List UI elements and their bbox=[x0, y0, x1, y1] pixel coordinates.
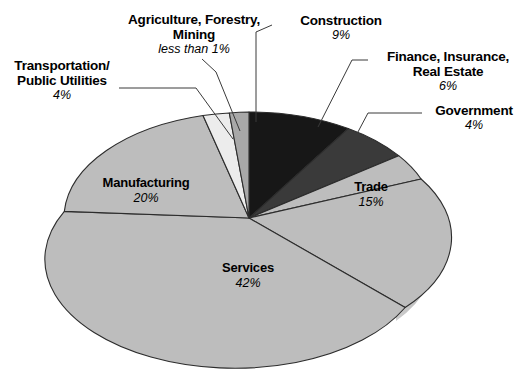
callout-construction-value: 9% bbox=[272, 28, 410, 42]
inner-label-services-name: Services bbox=[193, 261, 303, 276]
callout-government-name: Government bbox=[420, 103, 528, 118]
callout-finance-name-line2: Real Estate bbox=[368, 64, 528, 79]
inner-label-services: Services 42% bbox=[193, 261, 303, 290]
callout-construction: Construction 9% bbox=[272, 13, 410, 42]
callout-agriculture-value: less than 1% bbox=[98, 42, 290, 56]
inner-label-trade-name: Trade bbox=[326, 180, 416, 195]
callout-transportation-name-line1: Transportation/ bbox=[4, 58, 120, 73]
callout-agriculture-name-line1: Agriculture, Forestry, bbox=[98, 12, 290, 27]
inner-label-manufacturing-name: Manufacturing bbox=[85, 176, 207, 191]
callout-transportation-name-line2: Public Utilities bbox=[4, 73, 120, 88]
callout-agriculture-name-line2: Mining bbox=[98, 27, 290, 42]
inner-label-trade: Trade 15% bbox=[326, 180, 416, 209]
pie-chart: Agriculture, Forestry, Mining less than … bbox=[0, 0, 530, 377]
callout-finance-name-line1: Finance, Insurance, bbox=[368, 49, 528, 64]
pie-top-face bbox=[45, 112, 452, 368]
inner-label-trade-value: 15% bbox=[326, 195, 416, 209]
callout-finance: Finance, Insurance, Real Estate 6% bbox=[368, 49, 528, 93]
inner-label-services-value: 42% bbox=[193, 276, 303, 290]
callout-government-value: 4% bbox=[420, 118, 528, 132]
callout-construction-name: Construction bbox=[272, 13, 410, 28]
callout-transportation-value: 4% bbox=[4, 88, 120, 102]
callout-finance-value: 6% bbox=[368, 79, 528, 93]
inner-label-manufacturing-value: 20% bbox=[85, 191, 207, 205]
callout-agriculture: Agriculture, Forestry, Mining less than … bbox=[98, 12, 290, 56]
leader-line-finance bbox=[318, 60, 368, 127]
callout-government: Government 4% bbox=[420, 103, 528, 132]
inner-label-manufacturing: Manufacturing 20% bbox=[85, 176, 207, 205]
callout-transportation: Transportation/ Public Utilities 4% bbox=[4, 58, 120, 102]
